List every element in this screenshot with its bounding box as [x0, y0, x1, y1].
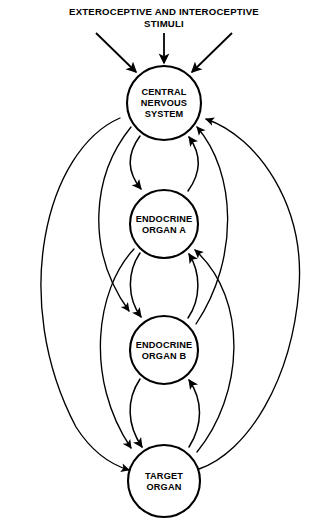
- link-organ-b-to-organ-a: [188, 254, 198, 318]
- central-nervous-system-label-line-3: SYSTEM: [145, 109, 184, 119]
- link-cns-to-organ-a: [130, 136, 141, 189]
- central-nervous-system-label-line-2: NERVOUS: [141, 98, 187, 108]
- link-cns-to-target-organ: [41, 118, 129, 470]
- endocrine-organ-b-label-line-2: ORGAN B: [142, 351, 187, 361]
- title-line-1: EXTEROCEPTIVE AND INTEROCEPTIVE: [69, 6, 259, 17]
- endocrine-organ-b-circle[interactable]: [130, 316, 198, 384]
- link-organ-a-to-cns: [188, 137, 198, 191]
- endocrine-organ-b-label-line-1: ENDOCRINE: [136, 340, 192, 350]
- endocrine-organ-a-circle[interactable]: [130, 190, 198, 258]
- target-organ-circle[interactable]: [128, 445, 200, 517]
- central-nervous-system-label-line-1: CENTRAL: [142, 87, 187, 97]
- diagram-title: EXTEROCEPTIVE AND INTEROCEPTIVE STIMULI: [69, 6, 259, 29]
- stimulus-left-arrow: [96, 33, 136, 72]
- inner-connection-group: [130, 136, 200, 447]
- link-cns-to-organ-b: [99, 127, 131, 311]
- node-central-nervous-system[interactable]: CENTRAL NERVOUS SYSTEM: [127, 66, 201, 140]
- neuroendocrine-feedback-diagram: EXTEROCEPTIVE AND INTEROCEPTIVE STIMULI: [0, 0, 328, 525]
- diagram-canvas: EXTEROCEPTIVE AND INTEROCEPTIVE STIMULI: [0, 0, 328, 525]
- link-target-organ-to-organ-a: [195, 250, 234, 452]
- node-endocrine-organ-b[interactable]: ENDOCRINE ORGAN B: [130, 316, 198, 384]
- outer-right-connection-group: [195, 119, 300, 469]
- endocrine-organ-a-label-line-1: ENDOCRINE: [136, 214, 192, 224]
- link-organ-a-to-target-organ: [100, 249, 134, 448]
- node-target-organ[interactable]: TARGET ORGAN: [128, 445, 200, 517]
- stimulus-right-arrow: [192, 33, 232, 72]
- link-target-organ-to-cns: [199, 119, 300, 469]
- link-organ-b-to-target-organ: [130, 379, 142, 447]
- link-target-organ-to-organ-b: [189, 380, 200, 447]
- title-line-2: STIMULI: [144, 18, 184, 29]
- endocrine-organ-a-label-line-2: ORGAN A: [142, 225, 186, 235]
- target-organ-label-line-1: TARGET: [145, 471, 183, 481]
- node-endocrine-organ-a[interactable]: ENDOCRINE ORGAN A: [130, 190, 198, 258]
- link-organ-a-to-organ-b: [130, 253, 141, 317]
- outer-left-connection-group: [41, 118, 134, 470]
- target-organ-label-line-2: ORGAN: [147, 482, 182, 492]
- link-organ-b-to-cns: [196, 127, 228, 324]
